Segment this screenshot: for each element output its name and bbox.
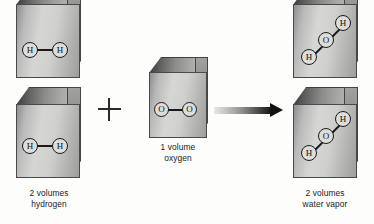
combining-volumes-figure: H H H H 2 volumes hydrogen O O 1 volume … [0, 0, 374, 224]
arrow-shaft [214, 107, 271, 114]
water-vapor-cube-top: H O H [293, 4, 357, 78]
caption-oxygen: 1 volume oxygen [136, 142, 220, 164]
caption-water-vapor: 2 volumes water vapor [278, 188, 372, 210]
cube-front-face [149, 72, 207, 138]
cube-front-face [16, 104, 80, 178]
arrow-head [270, 103, 283, 117]
plus-vertical-bar [108, 98, 110, 121]
cube-front-face [293, 4, 357, 78]
hydrogen-cube-bottom: H H [16, 104, 80, 178]
oxygen-cube: O O [149, 72, 207, 138]
cube-front-face [293, 104, 357, 178]
plus-sign-icon [98, 98, 121, 121]
cube-front-face [16, 4, 80, 78]
hydrogen-cube-top: H H [16, 4, 80, 78]
reaction-arrow-icon [214, 103, 283, 117]
caption-hydrogen: 2 volumes hydrogen [6, 188, 92, 210]
water-vapor-cube-bottom: H O H [293, 104, 357, 178]
